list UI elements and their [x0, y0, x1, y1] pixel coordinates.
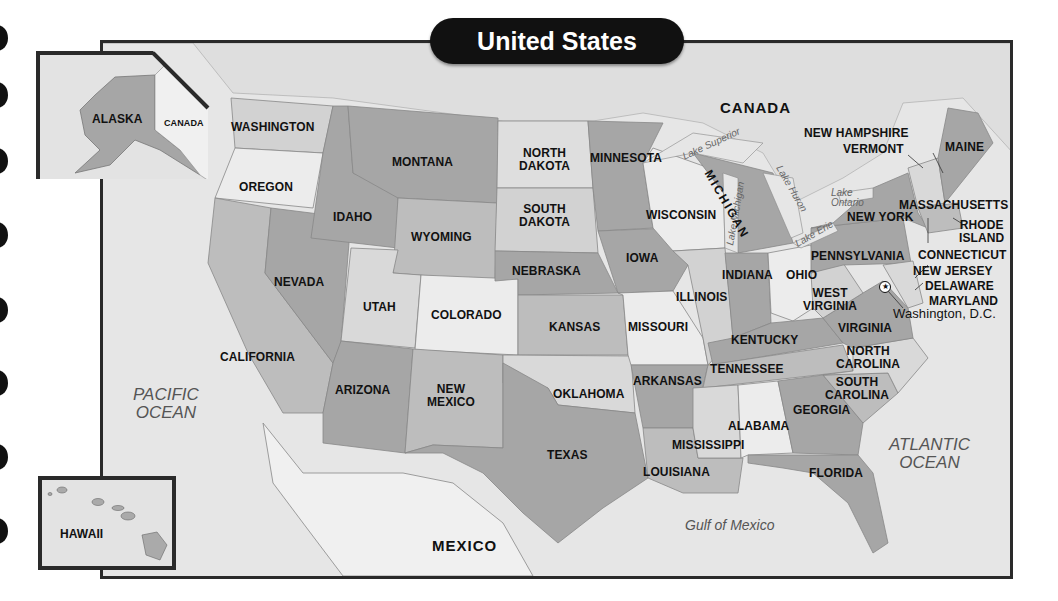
state-label-indiana: INDIANA — [722, 269, 773, 282]
state-label-alaska: ALASKA — [92, 113, 143, 126]
state-label-wisconsin: WISCONSIN — [646, 209, 716, 222]
country-label-mexico: MEXICO — [432, 537, 497, 554]
binder-hole — [0, 82, 8, 108]
binder-hole — [0, 222, 8, 248]
state-label-oklahoma: OKLAHOMA — [553, 388, 624, 401]
state-label-oregon: OREGON — [239, 181, 293, 194]
state-label-delaware: DELAWARE — [925, 280, 994, 293]
state-label-new-hampshire: NEW HAMPSHIRE — [804, 127, 909, 140]
country-label-canada: CANADA — [720, 99, 791, 116]
binder-hole — [0, 25, 8, 51]
state-label-massachusetts: MASSACHUSETTS — [899, 199, 1008, 212]
state-label-virginia: VIRGINIA — [838, 322, 892, 335]
state-label-texas: TEXAS — [547, 449, 588, 462]
state-label-missouri: MISSOURI — [628, 321, 688, 334]
state-label-hawaii: HAWAII — [60, 528, 103, 541]
state-label-illinois: ILLINOIS — [676, 291, 727, 304]
state-label-arkansas: ARKANSAS — [633, 375, 702, 388]
state-label-minnesota: MINNESOTA — [590, 152, 662, 165]
state-label-south-dakota: SOUTHDAKOTA — [519, 203, 570, 229]
state-label-tennessee: TENNESSEE — [710, 363, 784, 376]
gulf-of-mexico-label: Gulf of Mexico — [685, 516, 774, 534]
state-label-west-virginia: WESTVIRGINIA — [803, 287, 857, 313]
state-label-colorado: COLORADO — [431, 309, 502, 322]
binder-hole — [0, 370, 8, 396]
map-frame: CANADA MEXICO PACIFICOCEAN ATLANTICOCEAN… — [100, 40, 1013, 579]
state-label-florida: FLORIDA — [809, 467, 863, 480]
state-label-maine: MAINE — [945, 141, 984, 154]
state-label-new-mexico: NEWMEXICO — [427, 383, 475, 409]
state-label-mississippi: MISSISSIPPI — [672, 439, 744, 452]
state-label-georgia: GEORGIA — [793, 404, 850, 417]
hawaii-islands-shape — [42, 480, 172, 566]
state-label-new-jersey: NEW JERSEY — [913, 265, 993, 278]
state-label-new-york: NEW YORK — [847, 211, 914, 224]
state-label-north-dakota: NORTHDAKOTA — [519, 147, 570, 173]
state-label-kentucky: KENTUCKY — [731, 334, 798, 347]
state-label-iowa: IOWA — [626, 252, 658, 265]
map-title: United States — [430, 18, 684, 64]
binder-hole — [0, 148, 8, 174]
state-label-nebraska: NEBRASKA — [512, 265, 581, 278]
alaska-inset-corner-border — [152, 51, 212, 111]
state-label-alabama: ALABAMA — [728, 420, 789, 433]
state-label-california: CALIFORNIA — [220, 351, 295, 364]
ocean-label-pacific: PACIFICOCEAN — [133, 386, 199, 422]
ocean-label-atlantic: ATLANTICOCEAN — [889, 436, 970, 472]
state-label-wyoming: WYOMING — [411, 231, 472, 244]
state-label-south-carolina: SOUTHCAROLINA — [825, 376, 889, 402]
state-label-nevada: NEVADA — [274, 276, 324, 289]
state-label-pennsylvania: PENNSYLVANIA — [811, 250, 904, 263]
country-label-canada-inset: CANADA — [164, 117, 204, 130]
state-label-louisiana: LOUISIANA — [643, 466, 710, 479]
state-label-montana: MONTANA — [392, 156, 453, 169]
hawaii-inset: HAWAII — [38, 476, 176, 570]
state-label-kansas: KANSAS — [549, 321, 600, 334]
state-label-vermont: VERMONT — [843, 143, 904, 156]
state-label-ohio: OHIO — [786, 269, 817, 282]
state-label-utah: UTAH — [363, 301, 396, 314]
binder-hole — [0, 444, 8, 470]
state-label-washington: WASHINGTON — [231, 121, 314, 134]
state-label-idaho: IDAHO — [333, 211, 372, 224]
binder-hole — [0, 518, 8, 544]
state-label-rhode-island: RHODEISLAND — [959, 219, 1004, 245]
state-label-north-carolina: NORTHCAROLINA — [836, 345, 900, 371]
lake-label-ontario: LakeOntario — [831, 188, 864, 208]
binder-hole — [0, 297, 8, 323]
state-label-arizona: ARIZONA — [335, 384, 390, 397]
star-in-circle-icon: ★ — [879, 281, 891, 293]
capital-label-washington-dc: Washington, D.C. — [893, 307, 996, 320]
state-label-connecticut: CONNECTICUT — [918, 249, 1006, 262]
